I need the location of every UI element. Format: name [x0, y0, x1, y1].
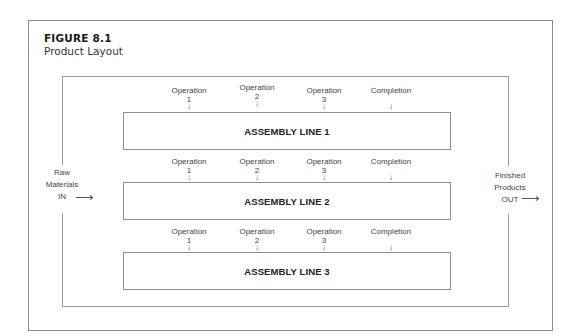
- plant-boundary-left-lower: [62, 213, 63, 307]
- station-operation-3: Operation 3 ↓: [294, 86, 354, 110]
- station-label: Completion: [371, 157, 411, 166]
- down-arrow-icon: ↓: [227, 101, 287, 107]
- down-arrow-icon: ↓: [361, 245, 421, 251]
- station-completion: Completion ↓: [361, 157, 421, 181]
- plant-boundary-bottom: [62, 306, 509, 307]
- station-label: Operation: [171, 227, 206, 236]
- station-operation-2: Operation 2 ↓: [227, 157, 287, 181]
- plant-boundary-top: [62, 76, 509, 77]
- station-completion: Completion ↓: [361, 227, 421, 251]
- assembly-line-3: ASSEMBLY LINE 3: [123, 252, 451, 290]
- assembly-line-1: ASSEMBLY LINE 1: [123, 112, 451, 150]
- down-arrow-icon: ↓: [227, 175, 287, 181]
- down-arrow-icon: ↓: [227, 245, 287, 251]
- plant-boundary-left-upper: [62, 76, 63, 165]
- station-operation-1: Operation 1 ↓: [159, 157, 219, 181]
- station-operation-3: Operation 3 ↓: [294, 227, 354, 251]
- output-arrow-icon: ⟶: [521, 194, 540, 204]
- station-label: Operation: [306, 86, 341, 95]
- input-arrow-icon: ⟶: [75, 193, 94, 203]
- station-label: Operation: [306, 227, 341, 236]
- station-label: Operation: [239, 83, 274, 92]
- station-operation-3: Operation 3 ↓: [294, 157, 354, 181]
- assembly-line-label: ASSEMBLY LINE 1: [244, 126, 329, 137]
- plant-boundary-right-upper: [508, 76, 509, 166]
- station-label: Operation: [306, 157, 341, 166]
- station-label: Completion: [371, 86, 411, 95]
- down-arrow-icon: ↓: [361, 104, 421, 110]
- station-operation-1: Operation 1 ↓: [159, 227, 219, 251]
- station-completion: Completion ↓: [361, 86, 421, 110]
- station-label: Operation: [239, 227, 274, 236]
- down-arrow-icon: ↓: [294, 245, 354, 251]
- assembly-line-label: ASSEMBLY LINE 2: [244, 196, 329, 207]
- down-arrow-icon: ↓: [294, 175, 354, 181]
- station-label: Completion: [371, 227, 411, 236]
- down-arrow-icon: ↓: [159, 175, 219, 181]
- figure-number: FIGURE 8.1: [44, 32, 112, 44]
- down-arrow-icon: ↓: [159, 104, 219, 110]
- station-operation-2: Operation 2 ↓: [227, 227, 287, 251]
- station-label: Operation: [239, 157, 274, 166]
- plant-boundary-right-lower: [508, 214, 509, 307]
- station-label: Operation: [171, 86, 206, 95]
- finished-text: Finished: [480, 170, 540, 182]
- down-arrow-icon: ↓: [361, 175, 421, 181]
- station-operation-2: Operation 2 ↓: [227, 83, 287, 107]
- station-operation-1: Operation 1 ↓: [159, 86, 219, 110]
- raw-text: Raw: [32, 167, 92, 179]
- assembly-line-label: ASSEMBLY LINE 3: [244, 266, 329, 277]
- down-arrow-icon: ↓: [294, 104, 354, 110]
- down-arrow-icon: ↓: [159, 245, 219, 251]
- station-label: Operation: [171, 157, 206, 166]
- assembly-line-2: ASSEMBLY LINE 2: [123, 182, 451, 220]
- figure-title: Product Layout: [44, 45, 123, 57]
